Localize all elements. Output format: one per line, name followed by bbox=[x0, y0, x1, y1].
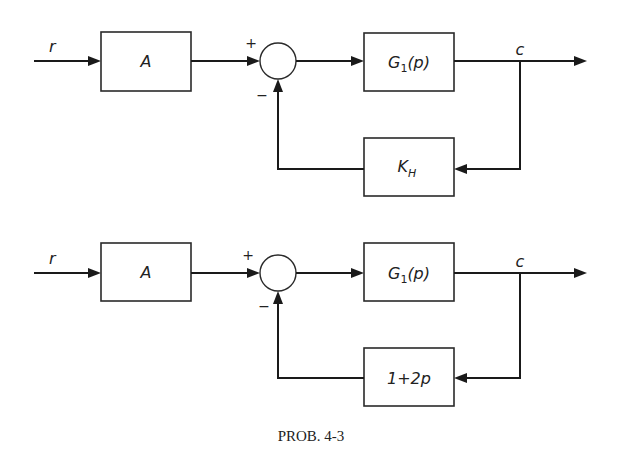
arrow-icon bbox=[454, 164, 467, 174]
summing-junction bbox=[260, 255, 296, 291]
minus-sign: − bbox=[256, 87, 268, 103]
arrow-icon bbox=[273, 79, 283, 92]
minus-sign: − bbox=[258, 298, 270, 314]
feedback-return-line bbox=[278, 88, 364, 169]
arrow-icon bbox=[88, 268, 101, 278]
arrow-icon bbox=[351, 268, 364, 278]
arrow-icon bbox=[88, 56, 101, 66]
arrow-icon bbox=[273, 291, 283, 304]
arrow-icon bbox=[454, 373, 467, 383]
diagram-bottom: r A + − G1(p) c 1+2p bbox=[34, 243, 587, 406]
figure-caption: PROB. 4-3 bbox=[278, 428, 345, 444]
output-label: c bbox=[516, 40, 525, 59]
arrow-icon bbox=[351, 56, 364, 66]
plant-block-label: G1(p) bbox=[388, 264, 430, 286]
summing-junction bbox=[260, 43, 296, 79]
feedback-line bbox=[463, 61, 520, 169]
plus-sign: + bbox=[245, 35, 257, 51]
feedback-line bbox=[463, 273, 520, 378]
arrow-icon bbox=[574, 268, 587, 278]
diagram-top: r A + − G1(p) c KH bbox=[34, 32, 587, 196]
feedback-block-label: 1+2p bbox=[387, 369, 431, 388]
plus-sign: + bbox=[242, 247, 254, 263]
arrow-icon bbox=[247, 268, 260, 278]
plant-block-label: G1(p) bbox=[388, 53, 430, 75]
arrow-icon bbox=[574, 56, 587, 66]
block-diagram-canvas: r A + − G1(p) c KH r bbox=[0, 0, 620, 458]
input-label: r bbox=[49, 37, 57, 56]
arrow-icon bbox=[247, 56, 260, 66]
gain-block-label: A bbox=[140, 263, 152, 282]
input-label: r bbox=[49, 249, 57, 268]
feedback-return-line bbox=[278, 300, 364, 378]
output-label: c bbox=[516, 252, 525, 271]
gain-block-label: A bbox=[140, 52, 152, 71]
